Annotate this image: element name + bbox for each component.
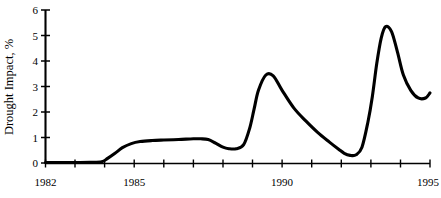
y-tick-label-4: 4 [33, 55, 39, 67]
y-tick-label-5: 5 [33, 30, 39, 42]
y-tick-label-2: 2 [33, 106, 39, 118]
x-tick-label-1990: 1990 [271, 176, 294, 188]
chart-background [0, 0, 441, 198]
x-tick-label-1985: 1985 [123, 176, 146, 188]
y-axis-title: Drought Impact, % [2, 39, 16, 135]
chart-figure: 0 1 2 3 4 5 6 1982 198 [0, 0, 441, 198]
x-tick-label-1982: 1982 [35, 176, 57, 188]
y-tick-label-6: 6 [33, 4, 39, 16]
y-tick-label-1: 1 [33, 132, 39, 144]
y-tick-label-0: 0 [33, 157, 39, 169]
y-tick-label-3: 3 [33, 81, 39, 93]
drought-impact-line-chart: 0 1 2 3 4 5 6 1982 198 [0, 0, 441, 198]
x-tick-label-1995: 1995 [417, 176, 440, 188]
